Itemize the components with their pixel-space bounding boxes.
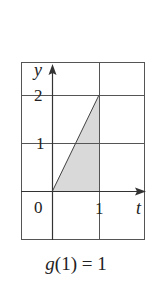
caption-value: (1) = 1 [55, 253, 107, 274]
t-axis-label: t [136, 198, 142, 218]
y-axis-label: y [32, 60, 42, 80]
y-tick-label-1: 1 [36, 134, 45, 153]
caption-function-name: g [45, 253, 55, 274]
caption: g(1) = 1 [0, 253, 152, 275]
y-tick-label-2: 2 [34, 86, 43, 105]
t-tick-label-1: 1 [95, 199, 104, 218]
figure: y 2 1 0 1 t g(1) = 1 [0, 0, 152, 282]
origin-label: 0 [34, 198, 43, 217]
graph: y 2 1 0 1 t [0, 0, 152, 282]
